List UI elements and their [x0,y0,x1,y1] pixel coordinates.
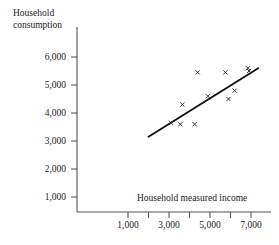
axes-group [77,27,271,212]
y-tick-label-6000: 6,000 [45,52,66,62]
x-tick-label-5000: 5,000 [199,220,220,230]
y-tick-label-2000: 2,000 [45,164,66,174]
data-point-7 [223,70,227,74]
x-tick-label-1000: 1,000 [117,220,138,230]
plot-canvas [0,0,279,245]
data-point-8 [226,97,230,101]
regression-line [149,68,259,137]
y-tick-label-3000: 3,000 [45,136,66,146]
data-point-3 [180,103,184,107]
data-point-2 [178,122,182,126]
y-tick-label-1000: 1,000 [45,192,66,202]
data-point-9 [233,89,237,93]
regression-line-group [149,68,259,137]
data-point-5 [196,70,200,74]
data-point-4 [193,122,197,126]
x-axis-ticks [128,212,251,218]
x-tick-label-7000: 7,000 [240,220,261,230]
y-tick-label-5000: 5,000 [45,80,66,90]
data-point-6 [206,94,210,98]
scatter-plot-figure: Household consumption Household measured… [0,0,279,245]
y-tick-label-4000: 4,000 [45,108,66,118]
x-tick-label-3000: 3,000 [158,220,179,230]
y-axis-ticks [71,57,77,197]
